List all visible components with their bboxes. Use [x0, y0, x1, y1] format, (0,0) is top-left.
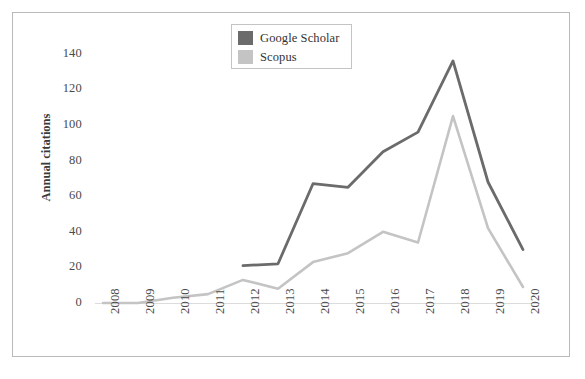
x-tick-label: 2020 — [528, 288, 543, 314]
x-tick-label: 2012 — [248, 288, 263, 314]
figure: 020406080100120140 200820092010201120122… — [0, 0, 585, 379]
x-tick-label: 2018 — [458, 288, 473, 314]
x-tick-label: 2016 — [388, 288, 403, 314]
legend-label-scopus: Scopus — [260, 50, 297, 65]
y-axis-title: Annual citations — [39, 88, 54, 228]
x-tick-label: 2011 — [213, 289, 228, 314]
y-tick-label: 20 — [48, 259, 82, 274]
y-tick-label: 140 — [48, 46, 82, 61]
legend-swatch-google-scholar — [238, 31, 253, 45]
x-tick-label: 2017 — [423, 288, 438, 314]
x-tick-label: 2013 — [283, 288, 298, 314]
legend-item-scopus: Scopus — [238, 48, 346, 66]
x-tick-label: 2019 — [493, 288, 508, 314]
series-line-google-scholar — [243, 61, 523, 266]
x-tick-label: 2010 — [178, 288, 193, 314]
x-tick-label: 2015 — [353, 288, 368, 314]
legend-item-google-scholar: Google Scholar — [238, 29, 346, 47]
legend-swatch-scopus — [238, 50, 253, 64]
x-tick-label: 2008 — [108, 288, 123, 314]
series-line-scopus — [103, 116, 523, 303]
y-tick-label: 0 — [48, 295, 82, 310]
chart-legend: Google Scholar Scopus — [231, 24, 352, 69]
x-tick-label: 2014 — [318, 288, 333, 314]
x-tick-label: 2009 — [143, 288, 158, 314]
legend-label-google-scholar: Google Scholar — [260, 31, 340, 46]
